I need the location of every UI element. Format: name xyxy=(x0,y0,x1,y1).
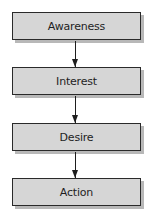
stage-label: Awareness xyxy=(48,20,105,33)
arrowhead-icon xyxy=(72,115,78,123)
stage-action-box: Action xyxy=(12,178,141,206)
arrowhead-icon xyxy=(72,170,78,178)
stage-label: Action xyxy=(60,186,93,199)
arrow-down-icon xyxy=(75,41,76,67)
stage-awareness-box: Awareness xyxy=(12,12,141,40)
arrow-down-icon xyxy=(75,96,76,123)
arrow-down-icon xyxy=(75,152,76,178)
stage-desire-box: Desire xyxy=(12,123,141,151)
arrowhead-icon xyxy=(72,59,78,67)
stage-interest-box: Interest xyxy=(12,67,141,95)
stage-label: Interest xyxy=(56,75,97,88)
stage-label: Desire xyxy=(60,131,94,144)
